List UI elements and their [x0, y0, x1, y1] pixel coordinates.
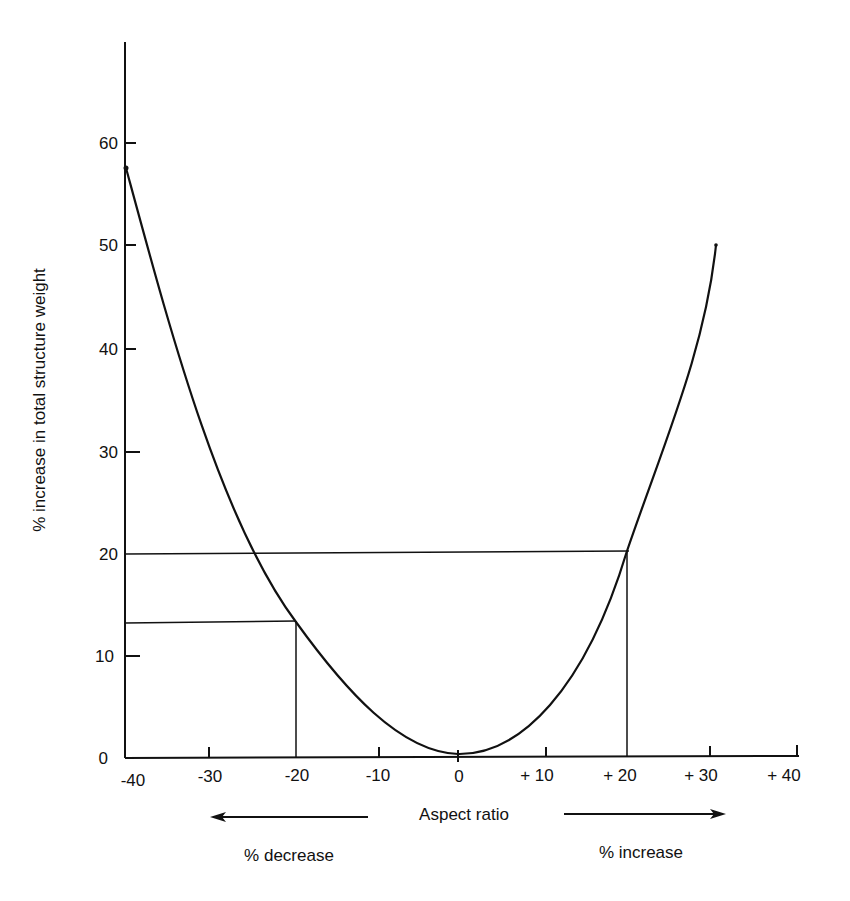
x-axis-title: Aspect ratio	[419, 805, 509, 824]
reference-lines	[125, 551, 629, 758]
decrease-arrow-icon	[210, 812, 368, 822]
y-ticks	[125, 143, 140, 656]
y-tick-label: 50	[99, 236, 118, 255]
x-tick-labels: -40 -30 -20 -10 0 + 10 + 20 + 30 + 40	[121, 766, 801, 790]
x-tick-label: + 30	[684, 766, 718, 785]
x-tick-label: -40	[121, 771, 146, 790]
y-tick-label: 0	[99, 749, 108, 768]
x-ticks	[209, 745, 797, 762]
x-tick-label: + 10	[520, 766, 554, 785]
curve-start-point	[124, 166, 129, 171]
x-axis	[125, 756, 799, 758]
decrease-label: % decrease	[244, 846, 334, 865]
y-tick-label: 40	[99, 340, 118, 359]
y-tick-label: 30	[99, 443, 118, 462]
y-tick-label: 10	[95, 647, 114, 666]
y-tick-labels: 0 10 20 30 40 50 60	[95, 134, 118, 768]
y-axis-title: % increase in total structure weight	[30, 268, 49, 532]
x-tick-label: -30	[198, 767, 223, 786]
increase-label: % increase	[599, 843, 683, 862]
x-tick-label: 0	[454, 767, 463, 786]
y-tick-label: 60	[99, 134, 118, 153]
curve-end-point	[714, 243, 718, 247]
x-tick-label: + 20	[603, 766, 637, 785]
chart: 0 10 20 30 40 50 60 -40 -30 -20 -10 0 + …	[0, 0, 850, 901]
x-tick-label: + 40	[767, 766, 801, 785]
x-tick-label: -10	[366, 766, 391, 785]
x-tick-label: -20	[285, 766, 310, 785]
y-tick-label: 20	[99, 545, 118, 564]
increase-arrow-icon	[564, 809, 726, 819]
